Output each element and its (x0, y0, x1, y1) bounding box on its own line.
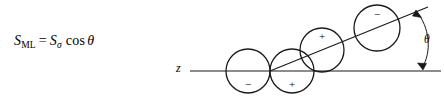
angle-arrow-head-bottom (418, 63, 427, 70)
angle-theta-label: θ (424, 33, 430, 45)
dipole-chain-diagram: z − + + − θ (0, 0, 444, 106)
figure-canvas: SML=Sσcosθ z − + + − θ (0, 0, 444, 106)
charge-sign-4: − (371, 9, 383, 20)
charge-sign-1: − (242, 79, 254, 90)
tilted-axis-line (270, 7, 428, 71)
charge-sign-3: + (316, 31, 328, 42)
charge-sign-2: + (286, 79, 298, 90)
angle-arrow-head-top (413, 10, 422, 18)
